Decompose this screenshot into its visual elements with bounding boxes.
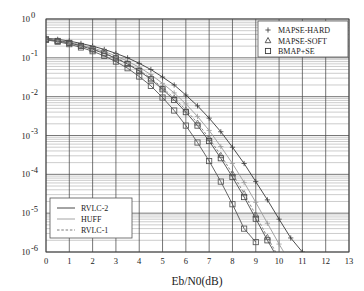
x-tick-label: 12 xyxy=(321,256,330,266)
svg-text:10: 10 xyxy=(22,208,31,218)
svg-text:10: 10 xyxy=(22,14,31,24)
svg-text:0: 0 xyxy=(31,10,35,20)
x-tick-label: 1 xyxy=(67,256,71,266)
svg-text:-4: -4 xyxy=(31,165,39,175)
svg-text:-6: -6 xyxy=(31,243,38,253)
x-tick-label: 7 xyxy=(207,256,211,266)
legend-entry-label: HUFF xyxy=(81,215,102,224)
x-tick-label: 9 xyxy=(254,256,258,266)
marker-legend: MAPSE-HARDMAPSE-SOFTBMAP+SE xyxy=(258,21,348,57)
x-tick-label: 8 xyxy=(230,256,234,266)
svg-text:-5: -5 xyxy=(31,204,38,214)
svg-text:-2: -2 xyxy=(31,87,38,97)
legend-entry-label: BMAP+SE xyxy=(278,47,315,56)
svg-text:10: 10 xyxy=(22,169,31,179)
x-tick-label: 5 xyxy=(160,256,164,266)
svg-text:10: 10 xyxy=(22,131,31,141)
line-legend: RVLC-2HUFFRVLC-1 xyxy=(50,198,132,238)
legend-entry-label: RVLC-2 xyxy=(81,204,108,213)
chart-figure: SER 012345678910111213 10010-110-210-310… xyxy=(0,0,364,291)
svg-text:10: 10 xyxy=(22,247,31,257)
svg-text:-1: -1 xyxy=(31,48,38,58)
legend-entry-label: RVLC-1 xyxy=(81,226,108,235)
chart-plot-area: 012345678910111213 10010-110-210-310-410… xyxy=(0,0,364,291)
x-tick-label: 6 xyxy=(184,256,188,266)
x-tick-label: 3 xyxy=(114,256,118,266)
svg-text:-3: -3 xyxy=(31,126,38,136)
svg-text:10: 10 xyxy=(22,92,31,102)
x-tick-label: 2 xyxy=(90,256,94,266)
x-tick-label: 13 xyxy=(345,256,354,266)
legend-entry-label: MAPSE-SOFT xyxy=(278,37,327,46)
svg-text:10: 10 xyxy=(22,53,31,63)
x-tick-label: 11 xyxy=(298,256,306,266)
x-tick-label: 4 xyxy=(137,256,142,266)
x-tick-label: 10 xyxy=(275,256,284,266)
x-tick-label: 0 xyxy=(44,256,48,266)
x-axis-title: Eb/N0(dB) xyxy=(171,275,222,288)
legend-entry-label: MAPSE-HARD xyxy=(278,26,330,35)
